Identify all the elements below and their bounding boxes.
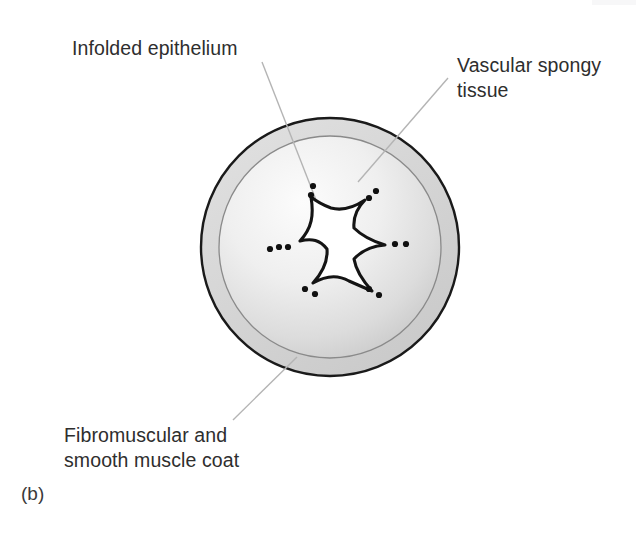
leader-fibromuscular-coat [233, 357, 297, 420]
panel-label: (b) [21, 482, 44, 506]
figure-root: Infolded epithelium Vascular spongy tiss… [0, 0, 640, 557]
label-infolded-epithelium: Infolded epithelium [72, 36, 238, 61]
label-fibromuscular-coat: Fibromuscular and smooth muscle coat [64, 423, 324, 473]
label-vascular-spongy-tissue: Vascular spongy tissue [457, 53, 627, 103]
